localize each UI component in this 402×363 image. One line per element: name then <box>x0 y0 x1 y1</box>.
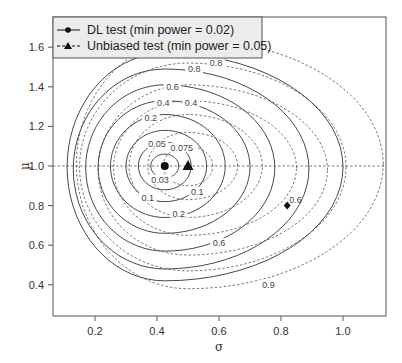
dl-min-point-marker <box>161 162 169 170</box>
contour-label: 0.1 <box>141 193 154 203</box>
y-tick-label: 1.6 <box>29 41 44 53</box>
contour-label: 0.8 <box>188 64 201 74</box>
contour-label: 0.8 <box>210 58 223 68</box>
x-tick-label: 0.2 <box>87 325 102 337</box>
legend-entry-dl: DL test (min power = 0.02) <box>87 23 234 37</box>
x-tick-label: 0.6 <box>211 325 226 337</box>
contour-chart: 0.030.050.10.20.40.60.80.0750.10.20.40.6… <box>0 0 402 363</box>
contour-label: 0.4 <box>157 98 170 108</box>
contour-label: 0.03 <box>151 175 169 185</box>
y-tick-label: 0.8 <box>29 200 44 212</box>
contour-label: 0.4 <box>185 98 198 108</box>
contour-label: 0.2 <box>172 209 185 219</box>
contour-label: 0.1 <box>191 187 204 197</box>
legend-entry-unbiased: Unbiased test (min power = 0.05) <box>87 39 271 53</box>
y-tick-label: 1.2 <box>29 120 44 132</box>
contour-label: 0.05 <box>148 139 166 149</box>
contour-label: 0.075 <box>171 143 194 153</box>
contour-label: 0.2 <box>145 113 158 123</box>
contour-label: 0.6 <box>213 238 226 248</box>
y-tick-label: 0.4 <box>29 279 44 291</box>
legend-circle-marker-icon <box>65 27 71 33</box>
y-tick-label: 0.6 <box>29 239 44 251</box>
x-tick-label: 0.4 <box>149 325 164 337</box>
contour-label: 0.9 <box>262 280 275 290</box>
x-axis-label: σ <box>215 340 223 354</box>
contour-label: 0.6 <box>166 82 179 92</box>
x-tick-label: 0.8 <box>273 325 288 337</box>
legend: DL test (min power = 0.02) Unbiased test… <box>53 17 271 58</box>
diamond-label: 0.6 <box>289 195 302 205</box>
x-tick-label: 1.0 <box>335 325 350 337</box>
y-axis-label: μ <box>18 162 32 170</box>
y-tick-label: 1.4 <box>29 81 44 93</box>
